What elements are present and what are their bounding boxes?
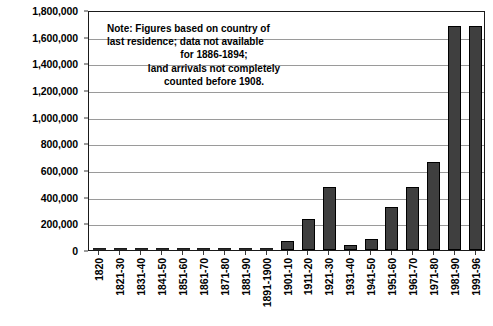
x-axis-tick-label: 1951-60 bbox=[386, 258, 398, 296]
y-axis-tick-label: 1,600,000 bbox=[32, 32, 78, 43]
bar bbox=[281, 241, 294, 250]
x-axis-tick-label: 1901-10 bbox=[282, 258, 294, 296]
x-axis-tick-label: 1971-80 bbox=[428, 258, 440, 296]
y-axis-tick-label: 400,000 bbox=[41, 192, 78, 203]
plot-area: Note: Figures based on country oflast re… bbox=[88, 11, 485, 251]
x-axis-tick-label: 1861-70 bbox=[198, 258, 210, 296]
x-axis-tick-mark bbox=[161, 251, 162, 255]
bar bbox=[135, 248, 148, 250]
x-axis-tick-mark bbox=[307, 251, 308, 255]
x-axis-tick-mark bbox=[98, 251, 99, 255]
x-axis-tick-mark bbox=[266, 251, 267, 255]
x-axis-tick-mark bbox=[203, 251, 204, 255]
x-axis-tick-label: 1871-80 bbox=[219, 258, 231, 296]
bar bbox=[156, 248, 169, 250]
y-axis: 0200,000400,000600,000800,0001,000,0001,… bbox=[0, 0, 86, 326]
y-axis-tick-label: 200,000 bbox=[41, 219, 78, 230]
x-axis-tick-mark bbox=[182, 251, 183, 255]
bar bbox=[260, 248, 273, 250]
bar bbox=[197, 248, 210, 250]
x-axis-tick-label: 1921-30 bbox=[323, 258, 335, 296]
x-axis-tick-label: 1981-90 bbox=[449, 258, 461, 296]
x-axis-tick-label: 1831-40 bbox=[135, 258, 147, 296]
bar bbox=[93, 248, 106, 250]
bar bbox=[365, 239, 378, 250]
y-axis-tick-label: 1,200,000 bbox=[32, 86, 78, 97]
y-axis-tick-label: 1,000,000 bbox=[32, 112, 78, 123]
chart-note-line: last residence; data not available bbox=[107, 35, 321, 48]
x-axis-tick-mark bbox=[287, 251, 288, 255]
x-axis-tick-mark bbox=[140, 251, 141, 255]
y-axis-tick-label: 800,000 bbox=[41, 139, 78, 150]
bar bbox=[448, 26, 461, 250]
x-axis-tick-label: 1911-20 bbox=[302, 258, 314, 295]
bar bbox=[406, 187, 419, 250]
x-axis-tick-mark bbox=[224, 251, 225, 255]
bar bbox=[177, 248, 190, 250]
bar bbox=[218, 248, 231, 250]
bar bbox=[469, 26, 482, 250]
x-axis-tick-label: 1821-30 bbox=[114, 258, 126, 296]
y-axis-tick-label: 600,000 bbox=[41, 166, 78, 177]
x-axis-tick-mark bbox=[433, 251, 434, 255]
x-axis-tick-label: 1851-60 bbox=[177, 258, 189, 296]
bar bbox=[114, 248, 127, 250]
y-axis-tick-label: 1,800,000 bbox=[32, 6, 78, 17]
bar-chart: 0200,000400,000600,000800,0001,000,0001,… bbox=[0, 0, 493, 326]
x-axis-tick-mark bbox=[245, 251, 246, 255]
y-axis-tick-label: 0 bbox=[72, 246, 78, 257]
x-axis: 18201821-301831-401841-501851-601861-701… bbox=[88, 251, 485, 326]
bar bbox=[385, 207, 398, 250]
x-axis-tick-mark bbox=[328, 251, 329, 255]
x-axis-tick-label: 1931-40 bbox=[344, 258, 356, 296]
chart-note-line: land arrivals not completely bbox=[107, 62, 321, 75]
bar bbox=[239, 248, 252, 250]
bar bbox=[427, 162, 440, 250]
bar bbox=[344, 245, 357, 250]
x-axis-tick-label: 1961-70 bbox=[407, 258, 419, 296]
x-axis-tick-mark bbox=[391, 251, 392, 255]
x-axis-tick-label: 1881-90 bbox=[240, 258, 252, 296]
x-axis-tick-label: 1991-96 bbox=[470, 258, 482, 296]
x-axis-tick-label: 1941-50 bbox=[365, 258, 377, 296]
chart-note: Note: Figures based on country oflast re… bbox=[107, 22, 321, 88]
x-axis-tick-label: 1820 bbox=[93, 258, 105, 281]
y-axis-tick-label: 1,400,000 bbox=[32, 59, 78, 70]
chart-note-line: Note: Figures based on country of bbox=[107, 22, 321, 35]
x-axis-tick-mark bbox=[370, 251, 371, 255]
bar bbox=[323, 187, 336, 250]
x-axis-tick-mark bbox=[412, 251, 413, 255]
bar bbox=[302, 219, 315, 250]
chart-note-line: counted before 1908. bbox=[107, 75, 321, 88]
x-axis-tick-mark bbox=[119, 251, 120, 255]
x-axis-tick-mark bbox=[349, 251, 350, 255]
x-axis-tick-mark bbox=[475, 251, 476, 255]
x-axis-tick-label: 1891-1900 bbox=[261, 258, 273, 307]
x-axis-tick-mark bbox=[454, 251, 455, 255]
x-axis-tick-label: 1841-50 bbox=[156, 258, 168, 296]
chart-note-line: for 1886-1894; bbox=[107, 48, 321, 61]
